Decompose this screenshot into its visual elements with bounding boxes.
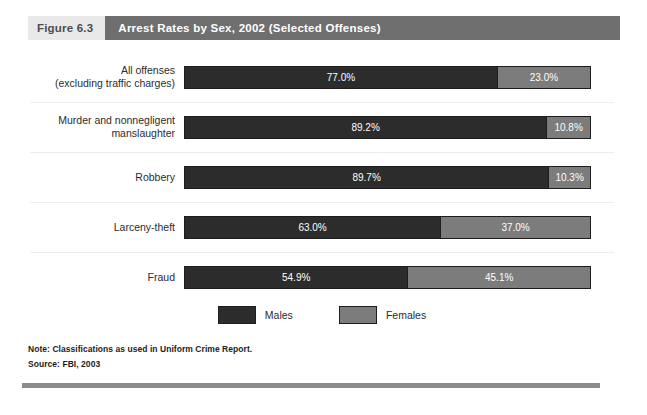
bar-row: Robbery89.7%10.3% <box>22 152 622 202</box>
bar-category-label: Robbery <box>22 171 184 184</box>
bar-category-label: Murder and nonnegligent manslaughter <box>22 114 184 140</box>
chart-legend: MalesFemales <box>22 306 622 324</box>
bar-row: Fraud54.9%45.1% <box>22 252 622 302</box>
figure-number-label: Figure 6.3 <box>37 22 93 34</box>
bar-segment-males: 89.7% <box>185 167 548 188</box>
bar-value-females: 37.0% <box>501 222 529 233</box>
bar-segment-females: 37.0% <box>440 217 590 238</box>
figure-card: Figure 6.3 Arrest Rates by Sex, 2002 (Se… <box>22 10 622 390</box>
figure-footer: Note: Classifications as used in Uniform… <box>28 342 620 372</box>
legend-item: Males <box>218 306 293 324</box>
bar-value-males: 89.2% <box>351 122 379 133</box>
legend-item: Females <box>339 306 426 324</box>
legend-swatch-males <box>218 306 256 324</box>
bar-track: 89.7%10.3% <box>184 166 591 189</box>
legend-swatch-females <box>339 306 377 324</box>
bar-segment-males: 63.0% <box>185 217 440 238</box>
bar-row: All offenses (excluding traffic charges)… <box>22 52 622 102</box>
bar-track: 77.0%23.0% <box>184 66 591 89</box>
bar-row: Larceny-theft63.0%37.0% <box>22 202 622 252</box>
legend-label: Females <box>386 309 426 321</box>
bar-value-females: 10.3% <box>555 172 583 183</box>
bar-segment-females: 23.0% <box>497 67 590 88</box>
bottom-rule <box>22 383 600 388</box>
figure-title: Arrest Rates by Sex, 2002 (Selected Offe… <box>118 22 380 34</box>
bar-category-label: All offenses (excluding traffic charges) <box>22 64 184 90</box>
bar-segment-males: 89.2% <box>185 117 546 138</box>
bar-segment-males: 54.9% <box>185 267 407 288</box>
bar-row: Murder and nonnegligent manslaughter89.2… <box>22 102 622 152</box>
bar-value-males: 89.7% <box>352 172 380 183</box>
figure-number-band: Figure 6.3 <box>28 16 105 40</box>
figure-header: Figure 6.3 Arrest Rates by Sex, 2002 (Se… <box>28 16 620 40</box>
bar-value-males: 63.0% <box>298 222 326 233</box>
bar-category-label: Fraud <box>22 271 184 284</box>
bar-segment-males: 77.0% <box>185 67 497 88</box>
figure-title-band: Arrest Rates by Sex, 2002 (Selected Offe… <box>105 16 620 40</box>
footer-note: Note: Classifications as used in Uniform… <box>28 342 620 357</box>
bar-value-males: 54.9% <box>282 272 310 283</box>
bar-segment-females: 10.3% <box>548 167 590 188</box>
bar-track: 89.2%10.8% <box>184 116 591 139</box>
legend-label: Males <box>265 309 293 321</box>
bar-value-females: 10.8% <box>554 122 582 133</box>
bar-segment-females: 45.1% <box>407 267 590 288</box>
footer-source: Source: FBI, 2003 <box>28 357 620 372</box>
bar-segment-females: 10.8% <box>546 117 590 138</box>
bar-value-males: 77.0% <box>327 72 355 83</box>
bar-value-females: 45.1% <box>485 272 513 283</box>
stacked-bar-chart: All offenses (excluding traffic charges)… <box>22 52 622 302</box>
bar-value-females: 23.0% <box>530 72 558 83</box>
bar-track: 54.9%45.1% <box>184 266 591 289</box>
bar-category-label: Larceny-theft <box>22 221 184 234</box>
bar-track: 63.0%37.0% <box>184 216 591 239</box>
